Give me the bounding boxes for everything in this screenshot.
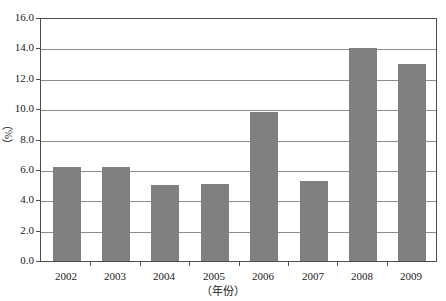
x-tick-label: 2009 xyxy=(383,270,439,282)
x-tick-mark xyxy=(189,262,190,266)
x-tick-mark xyxy=(90,262,91,266)
bar-chart: （%） 0.02.04.06.08.010.012.014.016.0 2002… xyxy=(0,0,446,301)
chart-title xyxy=(0,0,446,14)
bar xyxy=(250,112,278,261)
y-tick-label: 8.0 xyxy=(0,134,34,145)
bar xyxy=(349,48,377,261)
x-tick-label: 2008 xyxy=(334,270,390,282)
y-tick-label: 12.0 xyxy=(0,73,34,84)
x-tick-mark xyxy=(288,262,289,266)
bar xyxy=(201,184,229,261)
bar xyxy=(398,64,426,261)
bar xyxy=(300,181,328,261)
y-tick-label: 16.0 xyxy=(0,12,34,23)
x-tick-mark xyxy=(140,262,141,266)
bar xyxy=(53,167,81,261)
bars-layer xyxy=(41,19,436,261)
x-tick-mark xyxy=(387,262,388,266)
y-tick-label: 14.0 xyxy=(0,42,34,53)
plot-area xyxy=(40,18,437,262)
x-tick-label: 2003 xyxy=(87,270,143,282)
bar xyxy=(102,167,130,261)
bar xyxy=(151,185,179,261)
x-axis-title: （年份） xyxy=(0,285,446,298)
y-tick-label: 0.0 xyxy=(0,255,34,266)
x-tick-label: 2002 xyxy=(38,270,94,282)
x-tick-label: 2005 xyxy=(186,270,242,282)
x-tick-mark xyxy=(337,262,338,266)
y-tick-label: 10.0 xyxy=(0,103,34,114)
x-tick-label: 2006 xyxy=(235,270,291,282)
y-tick-label: 2.0 xyxy=(0,225,34,236)
x-tick-label: 2007 xyxy=(285,270,341,282)
x-tick-label: 2004 xyxy=(136,270,192,282)
x-tick-mark xyxy=(239,262,240,266)
y-tick-label: 4.0 xyxy=(0,194,34,205)
y-tick-label: 6.0 xyxy=(0,164,34,175)
